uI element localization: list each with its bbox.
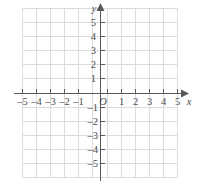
y-tick-label: –4 [87,144,99,155]
x-tick-label: –3 [44,96,56,107]
y-tick-label: –1 [87,102,99,113]
x-tick-label: 1 [119,96,124,107]
x-tick-label: –1 [72,96,84,107]
y-axis-arrowhead [97,3,105,11]
x-axis-tick-labels: –5 –4 –3 –2 –1 1 2 3 4 5 [16,96,180,107]
x-tick-label: 3 [147,96,152,107]
x-tick-label: –4 [30,96,42,107]
y-tick-label: –2 [87,116,99,127]
x-tick-label: 5 [175,96,180,107]
y-tick-label: –5 [87,158,99,169]
x-axis-label: x [186,96,192,107]
x-tick-label: –5 [16,96,28,107]
coordinate-plane-figure: –5 –4 –3 –2 –1 1 2 3 4 5 5 4 3 2 1 –1 –2… [0,0,197,189]
y-tick-label: –3 [87,130,99,141]
y-tick-label: 1 [91,73,96,84]
x-tick-label: –2 [58,96,70,107]
y-axis-label: y [91,3,97,14]
origin-label: O [99,96,107,107]
y-tick-label: 5 [91,17,96,28]
x-tick-label: 2 [133,96,138,107]
y-tick-label: 2 [91,59,96,70]
coordinate-grid-svg: –5 –4 –3 –2 –1 1 2 3 4 5 5 4 3 2 1 –1 –2… [0,0,197,189]
y-tick-label: 3 [91,45,96,56]
y-tick-label: 4 [91,31,97,42]
x-tick-label: 4 [161,96,167,107]
